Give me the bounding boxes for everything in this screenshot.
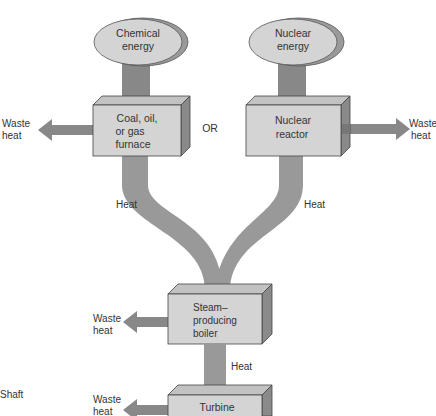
- or-label: OR: [202, 122, 218, 134]
- nuclear-label: Nuclear: [275, 27, 312, 39]
- boiler-label-3: boiler: [193, 328, 218, 339]
- turbine-label: Turbine: [199, 401, 234, 413]
- boiler-label: Steam–: [193, 302, 228, 313]
- heat-flow-right: [215, 152, 303, 290]
- waste-label-boiler-2: heat: [93, 325, 113, 336]
- waste-heat-arrow-turbine: [123, 399, 169, 416]
- turbine-box: Turbine: [168, 385, 272, 416]
- furnace-label-2: or gas: [115, 125, 144, 137]
- heat-flow-left: [122, 152, 222, 290]
- waste-heat-arrow-reactor: [340, 118, 410, 140]
- waste-label-turbine: Waste: [93, 394, 121, 405]
- boiler-turbine-connector: [204, 344, 226, 390]
- furnace-label-3: furnace: [115, 138, 150, 150]
- waste-label-turbine-2: heat: [93, 406, 113, 416]
- waste-label-furnace: Waste: [2, 118, 30, 129]
- reactor-label: Nuclear: [275, 114, 312, 126]
- reactor-box: Nuclear reactor: [246, 96, 350, 156]
- waste-label-reactor: Waste: [409, 118, 436, 129]
- waste-heat-arrow-furnace: [38, 119, 93, 141]
- heat-label-left: Heat: [116, 199, 137, 210]
- diagram-canvas: Chemical energy Nuclear energy Coal, oil…: [0, 0, 436, 416]
- furnace-box: Coal, oil, or gas furnace: [93, 96, 190, 156]
- waste-label-reactor-2: heat: [411, 130, 431, 141]
- reactor-label-2: reactor: [276, 128, 309, 140]
- nuclear-label-2: energy: [277, 40, 310, 52]
- boiler-box: Steam– producing boiler: [168, 284, 272, 344]
- shaft-label: Shaft: [0, 389, 24, 400]
- boiler-label-2: producing: [193, 315, 237, 326]
- nuclear-energy-source: Nuclear energy: [249, 18, 344, 66]
- heat-label-boiler: Heat: [231, 361, 252, 372]
- chemical-label-2: energy: [122, 40, 155, 52]
- chemical-label: Chemical: [116, 27, 160, 39]
- waste-heat-arrow-boiler: [123, 311, 169, 333]
- heat-label-right: Heat: [304, 199, 325, 210]
- waste-label-furnace-2: heat: [2, 130, 22, 141]
- waste-label-boiler: Waste: [93, 313, 121, 324]
- energy-flow-diagram: Chemical energy Nuclear energy Coal, oil…: [0, 0, 436, 416]
- furnace-label: Coal, oil,: [117, 112, 158, 124]
- chemical-energy-source: Chemical energy: [94, 18, 188, 66]
